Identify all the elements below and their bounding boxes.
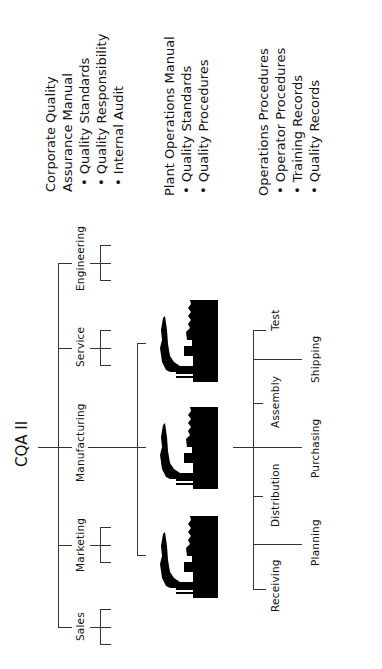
- sub-bracket-sales: [90, 609, 111, 645]
- plant-tick-1: [137, 343, 146, 344]
- function-receiving: Receiving: [269, 559, 281, 612]
- doc-bullet: Operator Procedures: [272, 48, 289, 196]
- doc-bullet: Training Records: [289, 48, 306, 196]
- doc-plant-operations: Plant Operations Manual Quality Standard…: [161, 36, 212, 196]
- function-test: Test: [269, 310, 281, 331]
- function-assembly: Assembly: [269, 376, 281, 428]
- sub-bracket-engineering: [90, 245, 111, 281]
- function-shipping: Shipping: [309, 336, 321, 383]
- dept-service: Service: [74, 327, 86, 367]
- plant-bracket-spine: [137, 343, 138, 555]
- doc-heading: Plant Operations Manual: [161, 36, 178, 196]
- factory-icon: [158, 516, 218, 598]
- doc-bullet: Quality Standards: [76, 34, 93, 192]
- doc-bullet: Quality Standards: [178, 36, 195, 196]
- tick-marketing: [58, 545, 72, 546]
- tick-shipping: [253, 359, 302, 360]
- doc-heading: Assurance Manual: [59, 34, 76, 192]
- dept-engineering: Engineering: [74, 226, 86, 291]
- root-connector: [38, 447, 72, 448]
- tick-service: [58, 348, 72, 349]
- functions-connector: [233, 447, 302, 448]
- factory-icon: [158, 300, 218, 382]
- dept-marketing: Marketing: [74, 518, 86, 572]
- function-distribution: Distribution: [269, 463, 281, 527]
- doc-bullet: Internal Audit: [110, 34, 127, 192]
- tick-distribution: [253, 496, 263, 497]
- dept-sales: Sales: [74, 612, 86, 641]
- function-purchasing: Purchasing: [309, 419, 321, 478]
- doc-bullet: Quality Procedures: [195, 36, 212, 196]
- tick-engineering: [58, 263, 72, 264]
- department-spine: [58, 263, 59, 627]
- doc-heading: Operations Procedures: [255, 48, 272, 196]
- tick-sales: [58, 627, 72, 628]
- doc-bullet: Quality Responsibility: [93, 34, 110, 192]
- factory-icon: [158, 407, 218, 489]
- dept-manufacturing: Manufacturing: [74, 403, 86, 482]
- doc-corporate-quality: Corporate Quality Assurance Manual Quali…: [42, 34, 127, 192]
- plant-tick-3: [137, 555, 146, 556]
- doc-bullet: Quality Records: [306, 48, 323, 196]
- tick-planning: [253, 544, 302, 545]
- sub-bracket-marketing: [90, 527, 111, 563]
- tick-assembly: [253, 403, 263, 404]
- doc-heading: Corporate Quality: [42, 34, 59, 192]
- functions-spine: [253, 330, 254, 589]
- sub-bracket-service: [90, 330, 111, 366]
- root-title: CQA II: [14, 421, 30, 467]
- doc-operations-procedures: Operations Procedures Operator Procedure…: [255, 48, 323, 196]
- function-planning: Planning: [309, 519, 321, 566]
- tick-receiving: [253, 589, 266, 590]
- tick-test: [253, 330, 266, 331]
